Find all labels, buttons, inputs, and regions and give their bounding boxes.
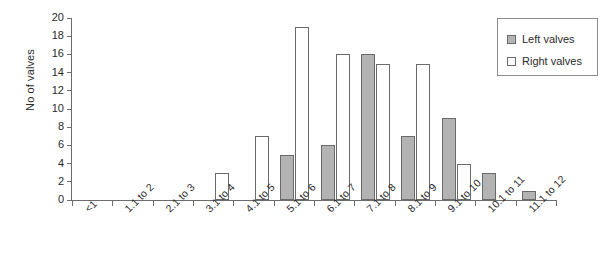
bar-left-valves <box>442 118 456 200</box>
legend-label-right-valves: Right valves <box>522 55 582 67</box>
legend-item-left-valves: Left valves <box>507 28 597 50</box>
x-axis-tick <box>435 200 436 206</box>
bar-left-valves <box>280 155 294 201</box>
legend-item-right-valves: Right valves <box>507 50 597 72</box>
y-tick-label: 16 <box>52 47 64 59</box>
x-axis-tick <box>354 200 355 206</box>
bar-left-valves <box>401 136 415 200</box>
x-axis-tick <box>516 200 517 206</box>
bar-left-valves <box>361 54 375 200</box>
x-axis-tick <box>274 200 275 206</box>
y-tick-label: 12 <box>52 84 64 96</box>
y-tick-label: 0 <box>58 193 64 205</box>
y-tick-label: 8 <box>58 120 64 132</box>
y-tick-mark <box>67 109 72 110</box>
x-axis-tick <box>233 200 234 206</box>
bar-right-valves <box>376 64 390 201</box>
y-axis-title: No of valves <box>24 20 36 140</box>
x-axis-tick <box>72 200 73 206</box>
x-axis-tick <box>395 200 396 206</box>
y-tick-mark <box>67 145 72 146</box>
bar-left-valves <box>321 145 335 200</box>
y-tick-mark <box>67 127 72 128</box>
legend-label-left-valves: Left valves <box>522 33 575 45</box>
y-tick-mark <box>67 36 72 37</box>
y-tick-mark <box>67 181 72 182</box>
y-tick-label: 6 <box>58 138 64 150</box>
x-axis-tick <box>475 200 476 206</box>
bar-right-valves <box>336 54 350 200</box>
y-tick-label: 18 <box>52 29 64 41</box>
bar-chart: No of valves 02468101214161820 <11.1 to … <box>0 0 604 266</box>
legend-swatch-left-valves-icon <box>507 35 516 44</box>
x-axis-tick <box>556 200 557 206</box>
bar-right-valves <box>295 27 309 200</box>
y-tick-mark <box>67 163 72 164</box>
x-axis-tick <box>153 200 154 206</box>
y-tick-label: 20 <box>52 11 64 23</box>
y-tick-label: 4 <box>58 157 64 169</box>
y-tick-mark <box>67 72 72 73</box>
y-tick-mark <box>67 90 72 91</box>
x-axis-tick <box>193 200 194 206</box>
y-tick-label: 10 <box>52 102 64 114</box>
y-tick-mark <box>67 18 72 19</box>
bar-right-valves <box>416 64 430 201</box>
x-axis-tick <box>112 200 113 206</box>
legend-swatch-right-valves-icon <box>507 57 516 66</box>
x-axis-tick <box>314 200 315 206</box>
y-tick-label: 2 <box>58 175 64 187</box>
y-tick-label: 14 <box>52 66 64 78</box>
legend: Left valves Right valves <box>497 18 598 76</box>
plot-area: 02468101214161820 <box>72 18 556 200</box>
y-tick-mark <box>67 54 72 55</box>
